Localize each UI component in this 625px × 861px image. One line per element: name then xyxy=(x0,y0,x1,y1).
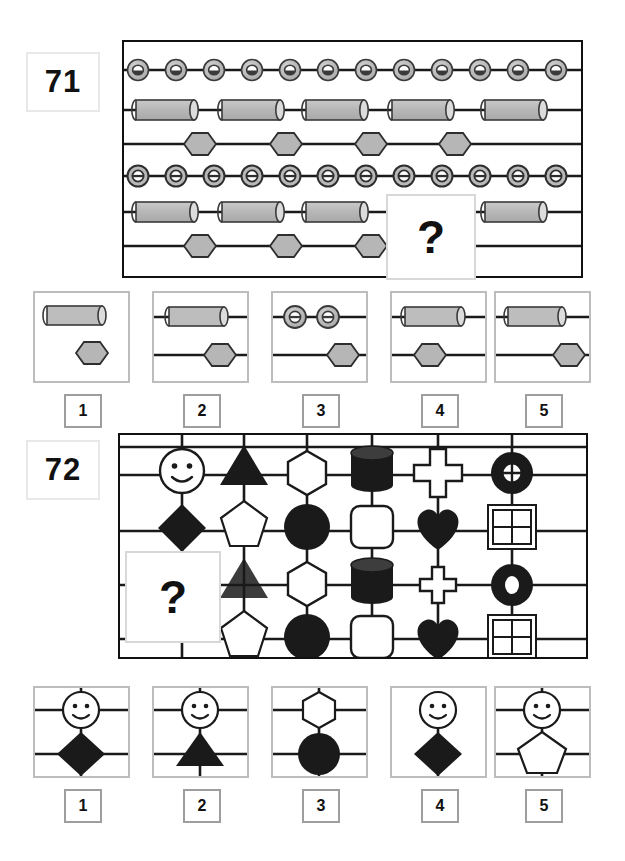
option-71-4[interactable] xyxy=(390,291,487,383)
option-72-1[interactable] xyxy=(33,686,130,778)
option-number-label-71-3: 3 xyxy=(317,402,326,420)
matrix-panel-72: ? xyxy=(118,433,588,659)
matrix-row-3 xyxy=(124,133,581,155)
question-box-71: ? xyxy=(386,194,476,280)
option-71-1[interactable] xyxy=(33,291,130,383)
option-number-label-71-1: 1 xyxy=(79,402,88,420)
option-number-71-2: 2 xyxy=(183,394,221,428)
option-72-3[interactable] xyxy=(271,686,368,778)
matrix-panel-71: ? xyxy=(122,40,583,278)
question-mark-71: ? xyxy=(417,214,445,260)
question-mark-72: ? xyxy=(159,574,187,620)
option-number-71-5: 5 xyxy=(525,394,563,428)
matrix-row-4 xyxy=(124,166,581,187)
option-number-72-4: 4 xyxy=(421,789,459,823)
option-graphic-71-4 xyxy=(392,293,485,381)
option-number-label-72-1: 1 xyxy=(79,797,88,815)
option-71-3[interactable] xyxy=(271,291,368,383)
option-graphic-72-5 xyxy=(496,688,589,776)
option-number-71-3: 3 xyxy=(302,394,340,428)
option-number-72-1: 1 xyxy=(64,789,102,823)
option-number-71-4: 4 xyxy=(421,394,459,428)
option-number-label-71-2: 2 xyxy=(198,402,207,420)
puzzle-number-71: 71 xyxy=(45,64,81,100)
option-graphic-71-5 xyxy=(496,293,589,381)
grid-row-3 xyxy=(220,558,533,606)
option-72-4[interactable] xyxy=(390,686,487,778)
option-graphic-72-2 xyxy=(154,688,247,776)
option-number-72-3: 3 xyxy=(302,789,340,823)
option-number-label-71-5: 5 xyxy=(540,402,549,420)
option-number-label-71-4: 4 xyxy=(436,402,445,420)
option-71-5[interactable] xyxy=(494,291,591,383)
option-number-label-72-2: 2 xyxy=(198,797,207,815)
option-number-72-5: 5 xyxy=(525,789,563,823)
option-72-2[interactable] xyxy=(152,686,249,778)
grid-row-2 xyxy=(158,501,536,552)
matrix-graphic-71 xyxy=(124,42,581,276)
options-row-71: 1 2 xyxy=(0,291,625,421)
puzzle-number-badge-72: 72 xyxy=(26,440,100,500)
matrix-row-6 xyxy=(124,235,581,257)
option-number-71-1: 1 xyxy=(64,394,102,428)
option-number-label-72-4: 4 xyxy=(436,797,445,815)
option-graphic-72-1 xyxy=(35,688,128,776)
option-graphic-72-4 xyxy=(392,688,485,776)
option-71-2[interactable] xyxy=(152,291,249,383)
matrix-row-5 xyxy=(124,202,581,222)
option-72-5[interactable] xyxy=(494,686,591,778)
puzzle-number-72: 72 xyxy=(45,452,81,488)
question-box-72: ? xyxy=(125,551,221,643)
option-number-label-72-3: 3 xyxy=(317,797,326,815)
grid-row-1 xyxy=(160,445,533,497)
option-number-label-72-5: 5 xyxy=(540,797,549,815)
grid-row-4 xyxy=(221,611,536,657)
option-graphic-72-3 xyxy=(273,688,366,776)
matrix-row-1 xyxy=(124,60,581,81)
option-graphic-71-2 xyxy=(154,293,247,381)
option-graphic-71-3 xyxy=(273,293,366,381)
puzzle-number-badge-71: 71 xyxy=(26,52,100,112)
matrix-row-2 xyxy=(124,100,581,120)
options-row-72: 1 2 xyxy=(0,686,625,816)
option-graphic-71-1 xyxy=(35,293,128,381)
option-number-72-2: 2 xyxy=(183,789,221,823)
